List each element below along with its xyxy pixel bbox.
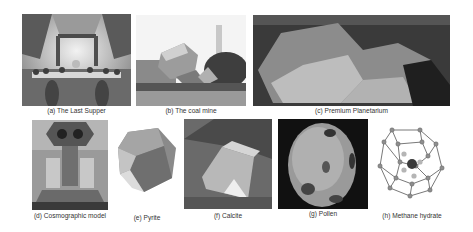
image-calcite [184,119,272,209]
caption-c: (c) Premium Planetarium [253,107,450,114]
image-cosmographic-model [32,120,108,210]
caption-a: (a) The Last Supper [22,107,131,114]
image-coal-mine [136,15,246,106]
caption-g: (g) Pollen [278,210,368,217]
caption-e: (e) Pyrite [114,214,180,221]
caption-b: (b) The coal mine [136,107,246,114]
caption-f: (f) Calcite [184,212,272,219]
image-pyrite [114,126,180,198]
image-premium-planetarium [253,15,450,106]
diagram-methane-hydrate [376,126,448,200]
caption-d: (d) Cosmographic model [26,212,114,219]
caption-h: (h) Methane hydrate [366,212,458,219]
image-pollen [278,119,368,209]
image-last-supper [22,14,131,106]
